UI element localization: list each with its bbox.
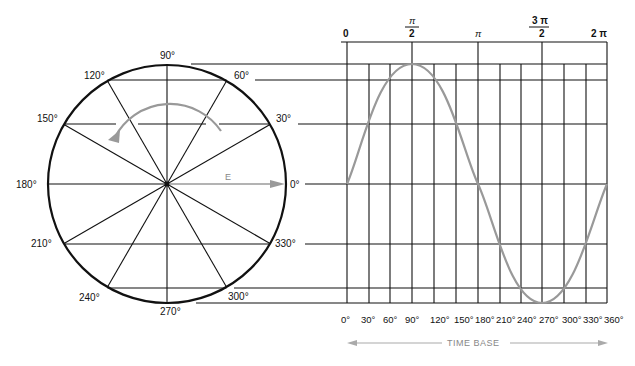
time-base-label: TIME BASE: [447, 338, 500, 348]
angle-label-90: 90°: [160, 50, 175, 61]
angle-label-120: 120°: [84, 70, 105, 81]
angle-label-150: 150°: [37, 113, 58, 124]
angle-label-240: 240°: [79, 292, 100, 303]
radian-label-two-pi: 2 π: [591, 28, 607, 39]
time-label-180: 180°: [475, 314, 495, 325]
radian-label-pi: π: [475, 28, 482, 39]
time-label-90: 90°: [405, 314, 420, 325]
angle-label-210: 210°: [31, 238, 52, 249]
angle-label-330: 330°: [275, 238, 296, 249]
center-point: [165, 182, 170, 187]
angle-label-270: 270°: [160, 306, 181, 317]
angle-label-0: 0°: [290, 179, 300, 190]
radian-label-0: 0: [343, 28, 349, 39]
arrow-left-icon: [347, 340, 357, 346]
time-base-arrow: TIME BASE: [347, 338, 608, 348]
radian-labels: 0 π 2 π 3 π 2 2 π: [343, 15, 607, 39]
time-label-300: 300°: [562, 314, 582, 325]
arrow-right-icon: [598, 340, 608, 346]
time-label-210: 210°: [496, 314, 516, 325]
vector-label: E: [225, 172, 232, 182]
time-label-120: 120°: [430, 314, 450, 325]
time-label-270: 270°: [539, 314, 559, 325]
time-label-60: 60°: [383, 314, 398, 325]
time-label-0: 0°: [341, 314, 350, 325]
angle-label-30: 30°: [276, 113, 291, 124]
angle-label-60: 60°: [234, 70, 249, 81]
time-label-240: 240°: [517, 314, 537, 325]
time-label-30: 30°: [361, 314, 376, 325]
angle-label-180: 180°: [16, 179, 37, 190]
time-label-360: 360°: [604, 314, 624, 325]
radian-label-half-pi-den: 2: [409, 28, 415, 39]
radian-label-three-half-pi-num: 3 π: [532, 15, 548, 26]
radian-label-half-pi-num: π: [409, 15, 416, 26]
radian-label-three-half-pi-den: 2: [539, 28, 545, 39]
phasor-circle: E 0° 30° 60° 90° 120° 150° 180° 210° 240…: [16, 50, 300, 317]
angle-label-300: 300°: [228, 291, 249, 302]
sine-wave-diagram: E 0° 30° 60° 90° 120° 150° 180° 210° 240…: [0, 0, 635, 366]
time-axis-labels: 0° 30° 60° 90° 120° 150° 180° 210° 240° …: [341, 314, 624, 325]
time-label-150: 150°: [454, 314, 474, 325]
time-label-330: 330°: [583, 314, 603, 325]
